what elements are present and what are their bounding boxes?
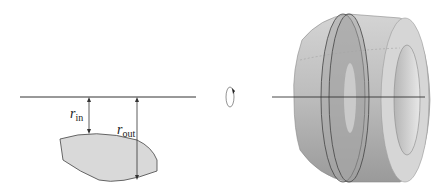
left-panel <box>20 97 196 181</box>
cross-section-region <box>60 134 157 182</box>
right-panel <box>272 14 430 182</box>
washer-method-diagram <box>0 0 445 193</box>
arrowhead-up-icon <box>135 97 139 102</box>
r-out-subscript: out <box>122 128 135 139</box>
slab-hole <box>344 63 356 133</box>
rotation-arrow-icon <box>226 87 235 107</box>
arrowhead-up-icon <box>87 97 91 102</box>
r-out-label: rout <box>117 122 135 139</box>
r-in-label: rin <box>70 106 83 123</box>
arrowhead-down-icon <box>87 129 91 134</box>
hole <box>394 45 420 155</box>
r-in-subscript: in <box>75 112 83 123</box>
